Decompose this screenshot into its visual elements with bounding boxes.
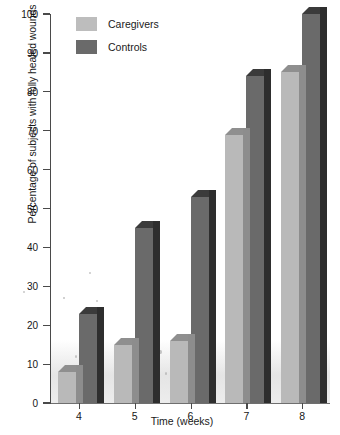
bar-chart: Percentage of subjects with fully healed… bbox=[0, 0, 340, 435]
scan-speck bbox=[29, 249, 31, 251]
x-tick-5 bbox=[135, 403, 136, 409]
x-tick-4 bbox=[79, 403, 80, 409]
legend-swatch-caregivers bbox=[76, 17, 97, 31]
bar-side-face bbox=[299, 72, 306, 403]
bar-caregivers-week-6 bbox=[170, 341, 188, 403]
y-tick-10 bbox=[43, 364, 50, 365]
y-tick-label-20: 20 bbox=[8, 320, 38, 331]
y-tick-20 bbox=[43, 325, 50, 326]
bar-side-face bbox=[76, 372, 83, 403]
scan-speck bbox=[75, 355, 77, 358]
bar-top-cap bbox=[76, 365, 83, 372]
bar-front-face bbox=[225, 135, 243, 403]
bar-top-cap bbox=[209, 190, 216, 197]
y-tick-40 bbox=[43, 247, 50, 248]
legend-label-controls: Controls bbox=[108, 41, 147, 53]
bar-top-cap bbox=[132, 338, 139, 345]
bar-top-cap bbox=[320, 7, 327, 14]
bar-top-cap bbox=[153, 221, 160, 228]
scan-speck bbox=[23, 291, 25, 293]
x-axis-label: Time (weeks) bbox=[0, 415, 340, 427]
bar-caregivers-week-7 bbox=[225, 135, 243, 403]
y-tick-90 bbox=[43, 52, 50, 53]
bar-side-face bbox=[243, 135, 250, 403]
legend-item-controls: Controls bbox=[76, 40, 159, 54]
bar-caregivers-week-4 bbox=[58, 372, 76, 403]
y-tick-label-70: 70 bbox=[8, 125, 38, 136]
legend-label-caregivers: Caregivers bbox=[108, 18, 159, 30]
scan-speck bbox=[96, 300, 98, 302]
bar-side-face bbox=[188, 341, 195, 403]
bar-caregivers-week-5 bbox=[114, 345, 132, 403]
y-tick-label-10: 10 bbox=[8, 359, 38, 370]
y-tick-label-50: 50 bbox=[8, 203, 38, 214]
bar-side-face bbox=[264, 76, 271, 403]
bar-top-cap bbox=[299, 65, 306, 72]
bar-front-face bbox=[114, 345, 132, 403]
legend-item-caregivers: Caregivers bbox=[76, 17, 159, 31]
x-tick-8 bbox=[302, 403, 303, 409]
bar-side-face bbox=[153, 228, 160, 403]
bar-top-cap bbox=[97, 307, 104, 314]
y-tick-50 bbox=[43, 208, 50, 209]
y-tick-label-40: 40 bbox=[8, 242, 38, 253]
y-tick-label-60: 60 bbox=[8, 164, 38, 175]
bar-top-cap bbox=[264, 69, 271, 76]
y-tick-label-0: 0 bbox=[8, 398, 38, 409]
bar-side-face bbox=[97, 314, 104, 403]
bar-side-face bbox=[132, 345, 139, 403]
legend-swatch-controls bbox=[76, 40, 97, 54]
bar-front-face bbox=[281, 72, 299, 403]
legend: Caregivers Controls bbox=[76, 17, 159, 63]
y-tick-label-80: 80 bbox=[8, 86, 38, 97]
bar-front-face bbox=[170, 341, 188, 403]
scan-speck bbox=[63, 297, 65, 299]
y-tick-label-100: 100 bbox=[8, 9, 38, 20]
bar-top-cap bbox=[188, 334, 195, 341]
y-tick-80 bbox=[43, 91, 50, 92]
y-tick-60 bbox=[43, 169, 50, 170]
y-tick-100 bbox=[43, 13, 50, 14]
bar-side-face bbox=[209, 197, 216, 403]
bar-front-face bbox=[58, 372, 76, 403]
plot-area bbox=[51, 14, 330, 403]
y-tick-30 bbox=[43, 286, 50, 287]
bar-side-face bbox=[320, 14, 327, 403]
y-tick-0 bbox=[43, 402, 50, 403]
y-tick-70 bbox=[43, 130, 50, 131]
x-tick-6 bbox=[191, 403, 192, 409]
x-tick-7 bbox=[246, 403, 247, 409]
x-axis-label-text: Time (weeks) bbox=[127, 415, 214, 427]
bar-top-cap bbox=[243, 128, 250, 135]
scan-speck bbox=[89, 272, 91, 274]
bar-caregivers-week-8 bbox=[281, 72, 299, 403]
y-tick-label-90: 90 bbox=[8, 47, 38, 58]
scan-speck bbox=[165, 372, 167, 375]
